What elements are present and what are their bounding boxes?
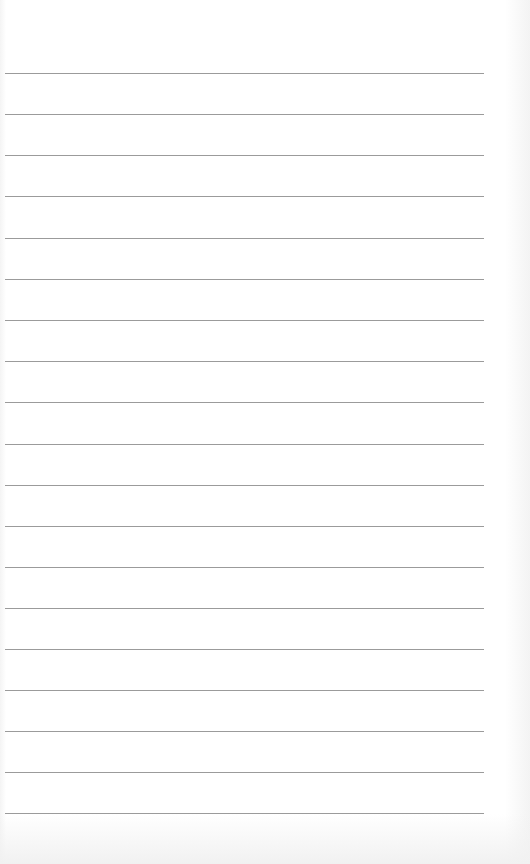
ruled-line [5, 649, 484, 650]
ruled-line [5, 238, 484, 239]
ruled-line [5, 402, 484, 403]
ruled-line [5, 279, 484, 280]
ruled-line [5, 731, 484, 732]
ruled-line [5, 155, 484, 156]
ruled-line [5, 320, 484, 321]
ruled-line [5, 772, 484, 773]
ruled-line [5, 485, 484, 486]
ruled-line [5, 196, 484, 197]
ruled-line [5, 526, 484, 527]
ruled-line [5, 444, 484, 445]
ruled-line [5, 361, 484, 362]
ruled-line [5, 567, 484, 568]
paper-shadow [0, 814, 530, 864]
ruled-line [5, 114, 484, 115]
ruled-line [5, 690, 484, 691]
ruled-line [5, 608, 484, 609]
ruled-line [5, 73, 484, 74]
lined-paper [0, 0, 530, 864]
